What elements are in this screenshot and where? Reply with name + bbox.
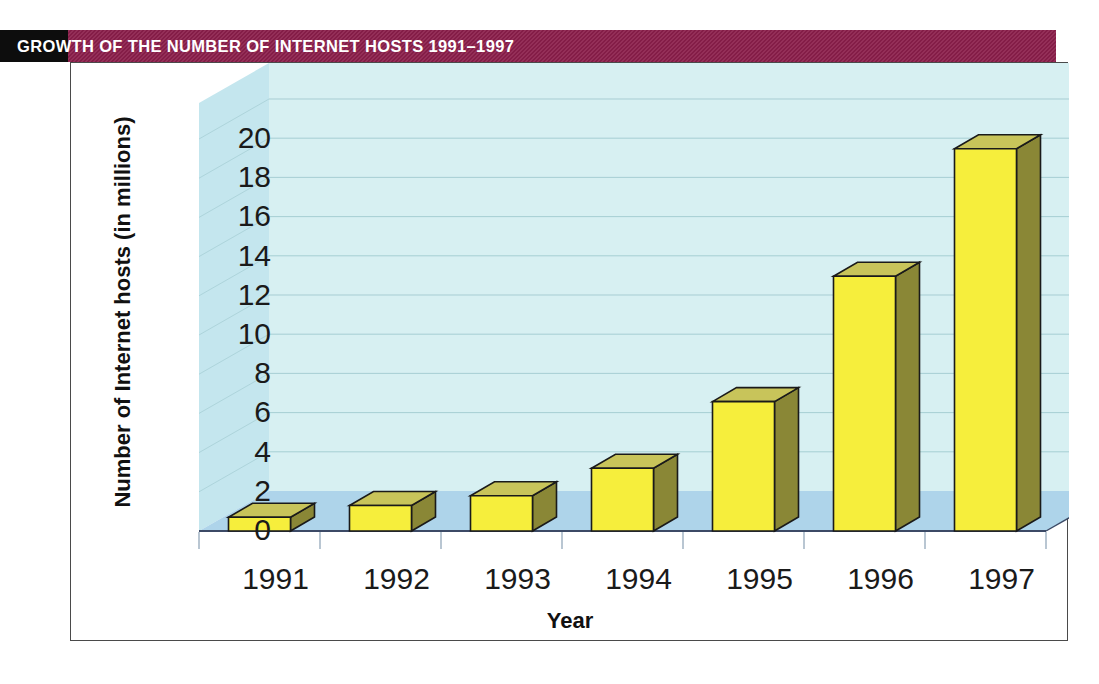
bar-front-face — [955, 149, 1017, 531]
plot-back-wall — [269, 63, 1069, 491]
x-tick-label-1996: 1996 — [821, 564, 941, 594]
bar-1994[interactable] — [592, 454, 678, 531]
x-tick-label-1997: 1997 — [942, 564, 1062, 594]
y-tick-label: 4 — [225, 437, 271, 467]
y-tick-label: 12 — [225, 280, 271, 310]
y-axis-title: Number of Internet hosts (in millions) — [110, 97, 136, 527]
y-tick-label: 16 — [225, 201, 271, 231]
x-tick-label-1995: 1995 — [700, 564, 820, 594]
y-tick-label: 0 — [225, 515, 271, 545]
bar-front-face — [350, 506, 412, 531]
bar-side-face — [1017, 135, 1041, 531]
chart-frame: 20181614121086420 Number of Internet hos… — [70, 62, 1068, 641]
y-tick-label: 18 — [225, 162, 271, 192]
y-tick-label: 20 — [225, 123, 271, 153]
bar-1996[interactable] — [834, 262, 920, 531]
x-tick-label-1992: 1992 — [337, 564, 457, 594]
y-tick-label: 8 — [225, 358, 271, 388]
x-axis-title: Year — [71, 608, 1069, 634]
bar-1992[interactable] — [350, 492, 436, 531]
y-tick-label: 6 — [225, 397, 271, 427]
bar-side-face — [775, 388, 799, 531]
x-axis-ticks: 1991199219931994199519961997 — [71, 550, 1069, 598]
x-tick-label-1991: 1991 — [216, 564, 336, 594]
bar-side-face — [896, 262, 920, 531]
x-tick-label-1994: 1994 — [579, 564, 699, 594]
bar-front-face — [834, 276, 896, 531]
x-tick-label-1993: 1993 — [458, 564, 578, 594]
bar-front-face — [713, 402, 775, 531]
bar-front-face — [592, 468, 654, 531]
y-tick-label: 10 — [225, 319, 271, 349]
page-title: GROWTH OF THE NUMBER OF INTERNET HOSTS 1… — [17, 30, 514, 62]
bar-1997[interactable] — [955, 135, 1041, 531]
y-tick-label: 14 — [225, 241, 271, 271]
bar-1993[interactable] — [471, 482, 557, 531]
bar-1995[interactable] — [713, 388, 799, 531]
chart-title-bar: GROWTH OF THE NUMBER OF INTERNET HOSTS 1… — [0, 30, 1056, 62]
y-tick-label: 2 — [225, 476, 271, 506]
bar-front-face — [471, 496, 533, 531]
